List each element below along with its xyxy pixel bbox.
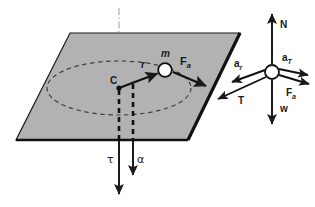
- center-label: C: [110, 75, 117, 86]
- diagram-canvas: C r m Fa τ α N w aT Fa ar T: [0, 0, 315, 207]
- center-point-dot: [116, 85, 121, 90]
- applied-force-fbd-label-sub: a: [292, 93, 296, 100]
- physics-diagram-figure: C r m Fa τ α N w aT Fa ar T: [0, 0, 315, 207]
- radial-acceleration-label-sub: r: [240, 64, 244, 71]
- fbd-particle: [265, 65, 279, 79]
- applied-force-fbd-label: Fa: [286, 87, 296, 100]
- applied-force-fbd-vector: [279, 75, 309, 84]
- tangential-acceleration-label: aT: [282, 52, 293, 65]
- rotating-plane: [16, 33, 240, 140]
- mass-label: m: [161, 48, 170, 59]
- radial-acceleration-label: ar: [234, 58, 244, 71]
- tangential-acceleration-label-sub: T: [288, 58, 293, 65]
- tension-label: T: [238, 95, 244, 106]
- angular-acceleration-label: α: [137, 153, 144, 166]
- tangential-acceleration-vector: [279, 69, 308, 75]
- torque-label: τ: [107, 153, 114, 166]
- weight-label: w: [279, 103, 288, 114]
- mass-particle: [158, 63, 172, 77]
- applied-force-label-sub: a: [187, 61, 191, 70]
- normal-force-label: N: [280, 19, 287, 30]
